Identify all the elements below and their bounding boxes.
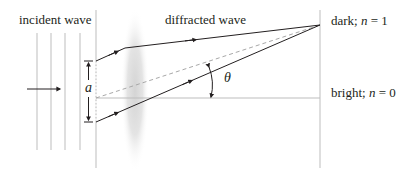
incident-wavefronts [37,33,80,150]
dark-prefix: dark; [331,13,361,28]
dark-fringe-label: dark; n = 1 [331,13,388,29]
diffracted-wave-label: diffracted wave [165,12,246,28]
incident-wave-label: incident wave [19,12,92,28]
bright-fringe-label: bright; n = 0 [331,85,396,101]
slit-width-label: a [84,80,93,96]
theta-label: θ [224,70,231,86]
upper-ray-arrow-1 [108,51,118,55]
lower-ray-arrow-2 [182,80,192,84]
bright-suffix: = 0 [375,85,395,100]
lower-ray-arrow-1 [108,113,118,117]
dark-suffix: = 1 [367,13,387,28]
upper-ray-arrow-2 [185,40,196,41]
bright-prefix: bright; [331,85,369,100]
lens [121,8,149,172]
